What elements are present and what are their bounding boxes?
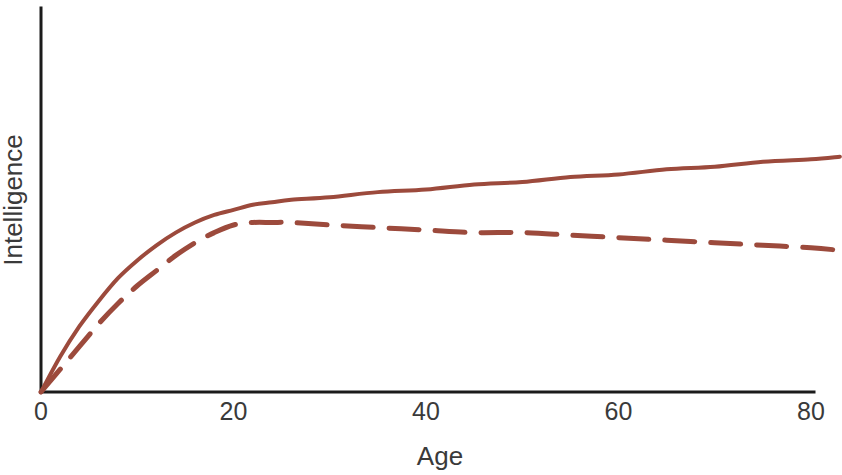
x-axis-title: Age	[417, 441, 463, 471]
x-axis-tick-labels: 020406080	[34, 397, 825, 425]
axes-group	[41, 8, 814, 392]
chart-canvas: 020406080 Age Intelligence	[0, 0, 842, 475]
data-series-group	[41, 157, 840, 392]
x-tick-label-0: 0	[34, 397, 48, 425]
x-tick-label-80: 80	[797, 397, 825, 425]
x-tick-label-60: 60	[605, 397, 633, 425]
y-axis-title: Intelligence	[0, 134, 28, 266]
crystallized-intelligence-line	[41, 157, 840, 392]
intelligence-vs-age-chart: 020406080 Age Intelligence	[0, 0, 842, 475]
fluid-intelligence-line	[41, 222, 840, 392]
x-tick-label-40: 40	[412, 397, 440, 425]
x-tick-label-20: 20	[220, 397, 248, 425]
